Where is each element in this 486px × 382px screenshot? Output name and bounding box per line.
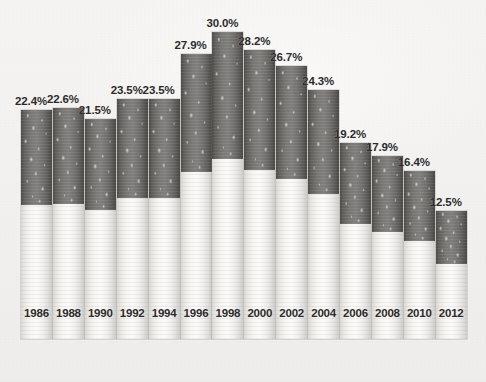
cigarette-filter-segment (308, 90, 339, 193)
bar-1994[interactable] (149, 99, 180, 339)
bar-1988[interactable] (53, 108, 84, 339)
value-label-2008: 17.9% (366, 141, 398, 153)
cigarette-filter-segment (149, 99, 180, 199)
bar-1986[interactable] (21, 110, 52, 339)
cigarette-filter-segment (53, 108, 84, 204)
value-label-2004: 24.3% (302, 75, 334, 87)
bar-1996[interactable] (181, 54, 212, 340)
value-label-2006: 19.2% (334, 128, 366, 140)
value-label-1988: 22.6% (47, 93, 79, 105)
value-label-2000: 28.2% (238, 35, 270, 47)
x-axis-tick-2012: 2012 (432, 307, 471, 319)
value-label-1992: 23.5% (111, 84, 143, 96)
cigarette-filter-segment (212, 32, 243, 159)
value-label-1990: 21.5% (79, 104, 111, 116)
cigarette-filter-segment (340, 143, 371, 225)
bar-2000[interactable] (244, 50, 275, 339)
value-label-2012: 12.5% (430, 196, 462, 208)
cigarette-filter-segment (181, 54, 212, 172)
bar-2012[interactable] (436, 211, 467, 339)
cigarette-filter-segment (436, 211, 467, 264)
cigarette-filter-segment (21, 110, 52, 205)
cigarette-filter-segment (244, 50, 275, 170)
value-label-1998: 30.0% (206, 17, 238, 29)
chart-container: 22.4%198622.6%198821.5%199023.5%199223.5… (0, 0, 486, 382)
value-label-1986: 22.4% (15, 95, 47, 107)
bar-1992[interactable] (117, 99, 148, 339)
bar-1990[interactable] (85, 119, 116, 339)
value-label-2002: 26.7% (270, 51, 302, 63)
value-label-1996: 27.9% (175, 39, 207, 51)
bar-1998[interactable] (212, 32, 243, 339)
value-label-2010: 16.4% (398, 156, 430, 168)
cigarette-filter-segment (85, 119, 116, 210)
plot-area: 22.4%198622.6%198821.5%199023.5%199223.5… (0, 0, 486, 382)
value-label-1994: 23.5% (143, 84, 175, 96)
bar-2002[interactable] (276, 66, 307, 339)
cigarette-filter-segment (117, 99, 148, 199)
